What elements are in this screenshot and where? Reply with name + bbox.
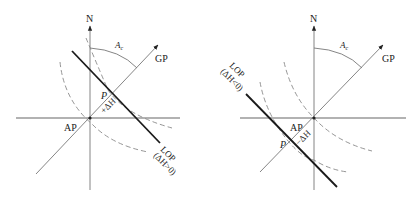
gp-label: GP [155,53,168,64]
azimuth-label: Ac [339,40,349,51]
north-label: N [86,13,93,24]
altitude-circle-dashed [86,38,172,128]
figure-right: N GP Ac AP P −ΔH LOP (ΔH<0) [219,13,406,190]
line-of-position [246,94,337,187]
azimuth-line [260,45,383,172]
ap-label: AP [64,122,77,133]
figure-left: N GP Ac AP P +ΔH LOP (ΔH>0) [16,13,180,190]
ap-point [88,116,91,119]
p-label: P [279,139,286,150]
north-label: N [310,13,317,24]
azimuth-arc [90,48,137,68]
ap-point [312,116,315,119]
celestial-lop-diagram: N GP Ac AP P +ΔH LOP (ΔH>0) N GP Ac AP P… [0,0,415,207]
azimuth-arc [314,48,362,68]
gp-label: GP [382,53,395,64]
azimuth-label: Ac [114,40,124,51]
line-of-position [72,51,160,143]
